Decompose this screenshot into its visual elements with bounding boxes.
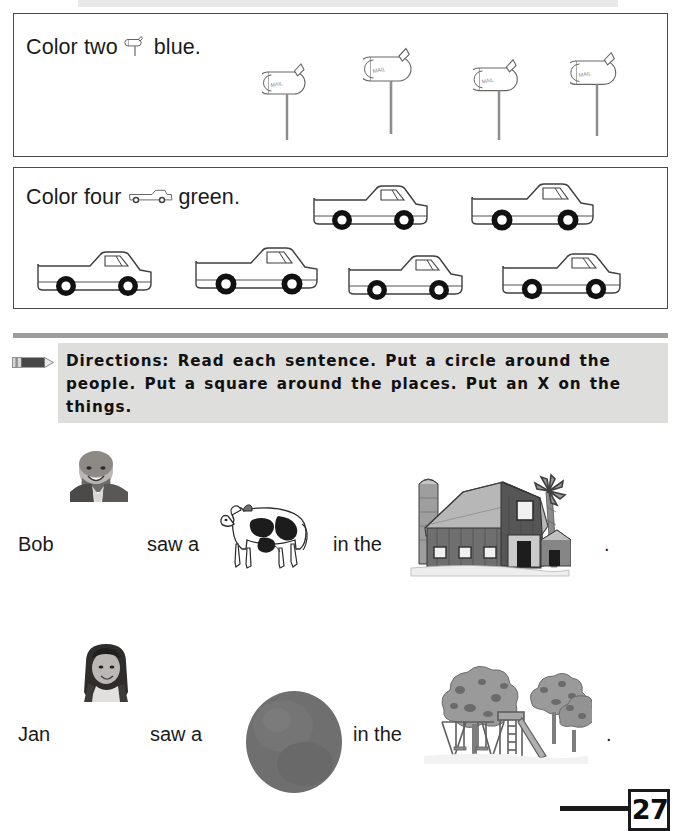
task-prompt-text-before: Color two	[26, 35, 118, 59]
truck-item[interactable]	[308, 180, 436, 242]
task-prompt-text-after: green.	[178, 185, 240, 209]
truck-item[interactable]	[497, 248, 629, 311]
sentence-period-bob: .	[604, 533, 610, 556]
sentence-name-bob: Bob	[18, 533, 54, 556]
directions-text: Directions: Read each sentence. Put a ci…	[66, 350, 660, 419]
truck-item[interactable]	[466, 178, 602, 242]
mailbox-item[interactable]: MAIL	[363, 40, 427, 140]
sentence-name-jan: Jan	[18, 723, 50, 746]
playground-illustration[interactable]	[420, 664, 592, 768]
sentence-connector-bob: in the	[333, 533, 382, 556]
mailbox-icon	[118, 32, 154, 64]
task-prompt-trucks: Color four green.	[26, 185, 240, 211]
boy-photo[interactable]	[62, 448, 136, 502]
pickup-truck-icon	[121, 186, 178, 211]
directions-rule	[13, 333, 668, 338]
sentence-row-bob: Bob saw a	[0, 462, 685, 582]
sentence-verb-bob: saw a	[147, 533, 199, 556]
girl-photo[interactable]	[72, 640, 144, 702]
sentence-verb-jan: saw a	[150, 723, 202, 746]
directions-panel: Directions: Read each sentence. Put a ci…	[58, 343, 668, 423]
truck-item[interactable]	[32, 246, 160, 308]
page-number: 27	[629, 794, 671, 825]
task-prompt-text-before: Color four	[26, 185, 121, 209]
sentence-row-jan: Jan saw a in the	[0, 652, 685, 772]
truck-item[interactable]	[343, 250, 471, 312]
pencil-icon	[12, 355, 54, 370]
mailbox-item[interactable]: MAIL	[570, 45, 632, 142]
page-number-rule	[560, 806, 633, 811]
barn-illustration[interactable]	[405, 462, 571, 582]
sentence-period-jan: .	[606, 723, 612, 746]
ball-photo[interactable]	[243, 690, 345, 794]
truck-item[interactable]	[190, 242, 326, 306]
task-prompt-mailboxes: Color two blue.	[26, 32, 201, 64]
mailbox-item[interactable]: MAIL	[262, 56, 320, 146]
mailbox-item[interactable]: MAIL	[473, 52, 533, 146]
sentence-connector-jan: in the	[353, 723, 402, 746]
cow-illustration[interactable]	[216, 494, 316, 570]
top-banner-strip	[78, 0, 618, 7]
task-prompt-text-after: blue.	[154, 35, 201, 59]
